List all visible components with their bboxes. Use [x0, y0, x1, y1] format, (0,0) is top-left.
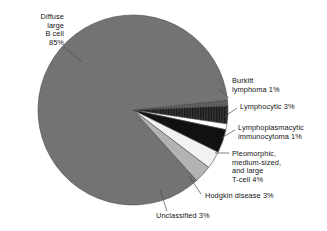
- pie-slices-group: [38, 15, 228, 205]
- slice-label-lymphoplasmacytic-immunocytoma: Lymphoplasmacytic immunocytoma 1%: [238, 124, 327, 141]
- slice-label-pleomorphic-t-cell: Pleomorphic, medium-sized, and large T-c…: [232, 150, 312, 184]
- slice-label-lymphocytic: Lymphocytic 3%: [240, 103, 326, 112]
- slice-label-unclassified: Unclassified 3%: [156, 212, 256, 221]
- slice-label-burkitt-lymphoma: Burkitt lymphoma 1%: [232, 77, 326, 94]
- pie-chart-figure: Diffuse large B cell 85% Burkitt lymphom…: [0, 0, 327, 231]
- slice-label-hodgkin-disease: Hodgkin disease 3%: [205, 192, 325, 201]
- slice-label-diffuse-large-b-cell: Diffuse large B cell 85%: [2, 13, 64, 47]
